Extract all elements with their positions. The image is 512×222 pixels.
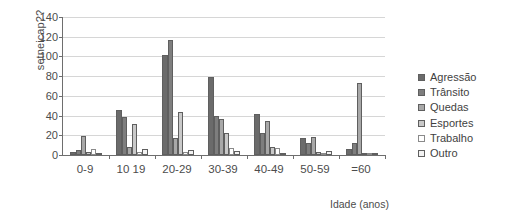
y-tick-label-140: 140 — [40, 11, 58, 23]
y-tick-mark-60 — [59, 96, 63, 97]
legend-swatch-icon — [418, 120, 425, 127]
y-tick-label-80: 80 — [46, 70, 58, 82]
y-tick-label-0: 0 — [52, 149, 58, 161]
x-axis-title: Idade (anos) — [330, 198, 389, 210]
x-tick-label-30-39: 30-39 — [208, 163, 237, 175]
bar-chart: setneicap?? 020406080100120140 0-910 192… — [0, 0, 512, 222]
y-tick-mark-120 — [59, 37, 63, 38]
legend-swatch-icon — [418, 135, 425, 142]
x-axis-tick-labels: 0-910 1920-2930-3940-4950-59=60 — [62, 163, 392, 181]
plot-area — [62, 17, 385, 156]
bar — [357, 83, 362, 155]
y-tick-mark-20 — [59, 135, 63, 136]
legend-label: Trânsito — [430, 87, 469, 98]
y-tick-label-60: 60 — [46, 90, 58, 102]
legend-item-quedas[interactable]: Quedas — [418, 100, 508, 115]
legend-item-trnsito[interactable]: Trânsito — [418, 85, 508, 100]
y-tick-mark-100 — [59, 56, 63, 57]
y-tick-label-120: 120 — [40, 31, 58, 43]
legend-label: Quedas — [430, 102, 469, 113]
x-tick-mark — [293, 155, 294, 159]
legend-swatch-icon — [418, 104, 425, 111]
bar-group — [247, 17, 293, 155]
legend-item-outro[interactable]: Outro — [418, 146, 508, 161]
x-tick-label-0-9: 0-9 — [77, 163, 94, 175]
x-tick-mark — [109, 155, 110, 159]
bar-group — [201, 17, 247, 155]
x-tick-label-40-49: 40-49 — [254, 163, 283, 175]
bar — [142, 149, 147, 155]
legend-item-agresso[interactable]: Agressão — [418, 70, 508, 85]
bars-layer — [63, 17, 385, 155]
x-tick-mark — [339, 155, 340, 159]
bar — [96, 153, 101, 155]
x-tick-label-10-19: 10 19 — [117, 163, 146, 175]
bar-group — [293, 17, 339, 155]
legend-swatch-icon — [418, 150, 425, 157]
legend-item-esportes[interactable]: Esportes — [418, 116, 508, 131]
x-tick-label-20-29: 20-29 — [162, 163, 191, 175]
y-tick-mark-140 — [59, 17, 63, 18]
bar — [234, 151, 239, 155]
bar-group — [339, 17, 385, 155]
legend-swatch-icon — [418, 89, 425, 96]
bar-group — [63, 17, 109, 155]
bar — [280, 153, 285, 155]
legend-label: Esportes — [430, 118, 473, 129]
y-tick-mark-40 — [59, 116, 63, 117]
x-tick-mark — [385, 155, 386, 159]
bar-group — [109, 17, 155, 155]
y-tick-label-100: 100 — [40, 50, 58, 62]
bar — [178, 112, 183, 155]
bar-group — [155, 17, 201, 155]
x-tick-mark — [155, 155, 156, 159]
bar — [132, 124, 137, 155]
bar — [326, 151, 331, 155]
x-tick-label-=60: =60 — [351, 163, 371, 175]
y-tick-mark-0 — [59, 155, 63, 156]
y-tick-label-40: 40 — [46, 110, 58, 122]
bar — [188, 150, 193, 155]
y-tick-label-20: 20 — [46, 129, 58, 141]
legend-item-trabalho[interactable]: Trabalho — [418, 131, 508, 146]
y-axis-tick-labels: 020406080100120140 — [28, 17, 58, 155]
legend-swatch-icon — [418, 74, 425, 81]
legend-label: Agressão — [430, 72, 476, 83]
x-tick-mark — [247, 155, 248, 159]
legend-label: Trabalho — [430, 133, 473, 144]
chart-legend: AgressãoTrânsitoQuedasEsportesTrabalhoOu… — [418, 70, 508, 161]
x-tick-mark — [201, 155, 202, 159]
bar — [372, 153, 377, 155]
x-tick-label-50-59: 50-59 — [300, 163, 329, 175]
y-tick-mark-80 — [59, 76, 63, 77]
legend-label: Outro — [430, 148, 458, 159]
